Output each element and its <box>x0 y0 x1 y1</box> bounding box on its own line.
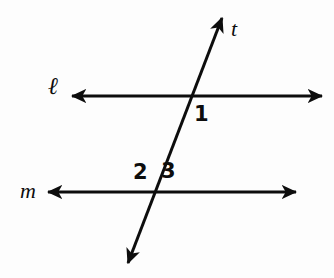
angle-label-1: 1 <box>194 104 208 125</box>
angle-label-2: 2 <box>133 162 147 183</box>
angle-label-3: 3 <box>161 161 175 182</box>
line-label-ell: ℓ <box>48 74 58 98</box>
line-label-m: m <box>20 180 36 202</box>
line-label-t: t <box>231 18 237 40</box>
line-t-transversal <box>128 18 222 263</box>
line-t-segment <box>128 18 222 263</box>
geometry-canvas <box>0 0 334 278</box>
geometry-figure: ℓ m t 1 2 3 <box>0 0 334 278</box>
